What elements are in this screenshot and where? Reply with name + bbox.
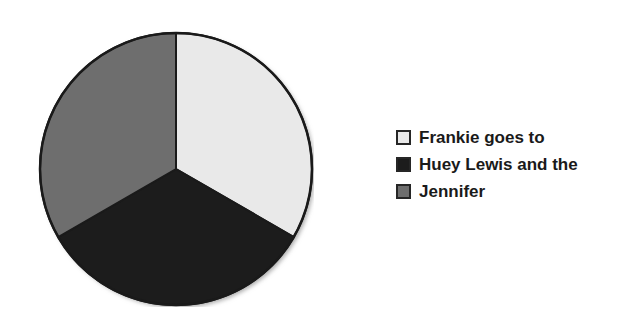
legend-item-huey-lewis-and-the[interactable]: Huey Lewis and the xyxy=(396,151,628,178)
legend-label-jennifer: Jennifer xyxy=(419,182,485,201)
pie-chart-screenshot: Frankie goes to Huey Lewis and the Jenni… xyxy=(0,0,638,336)
legend-swatch-icon-jennifer xyxy=(396,184,411,199)
legend-swatch-icon-huey-lewis-and-the xyxy=(396,157,411,172)
pie-chart-figure xyxy=(38,31,314,307)
legend-item-jennifer[interactable]: Jennifer xyxy=(396,178,628,205)
chart-legend: Frankie goes to Huey Lewis and the Jenni… xyxy=(396,124,628,205)
legend-item-frankie-goes-to[interactable]: Frankie goes to xyxy=(396,124,628,151)
pie-chart-svg xyxy=(38,31,314,307)
legend-label-huey-lewis-and-the: Huey Lewis and the xyxy=(419,155,578,174)
legend-swatch-icon-frankie-goes-to xyxy=(396,130,411,145)
legend-label-frankie-goes-to: Frankie goes to xyxy=(419,128,545,147)
